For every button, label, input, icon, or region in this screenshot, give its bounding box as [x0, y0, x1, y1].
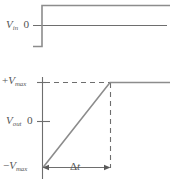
v-minus-max-subscript: max: [16, 165, 27, 172]
v-minus-max-symbol: V: [9, 159, 16, 171]
output-plot: [37, 77, 170, 179]
v-out-subscript: out: [13, 120, 22, 127]
delta-t-label: Δt: [70, 161, 80, 172]
waveform-figure: Vin 0 +Vmax Vout 0 −Vmax Δt: [0, 0, 173, 179]
v-in-symbol: V: [6, 18, 13, 30]
v-plus-max-axis-label: +Vmax: [2, 75, 26, 88]
v-out-axis-label: Vout 0: [6, 115, 33, 128]
output-ramp-trace: [43, 83, 170, 168]
delta-t-arrowhead-right: [104, 165, 111, 170]
delta-t-variable: t: [77, 160, 80, 172]
v-plus-max-symbol: V: [8, 74, 15, 86]
v-in-subscript: in: [13, 24, 18, 31]
input-plot: [33, 6, 170, 47]
v-out-zero-label: 0: [27, 114, 33, 126]
v-in-zero-label: 0: [24, 18, 30, 30]
v-out-symbol: V: [6, 114, 13, 126]
v-plus-max-subscript: max: [15, 80, 26, 87]
v-in-axis-label: Vin 0: [6, 19, 29, 32]
v-minus-max-axis-label: −Vmax: [3, 160, 27, 173]
